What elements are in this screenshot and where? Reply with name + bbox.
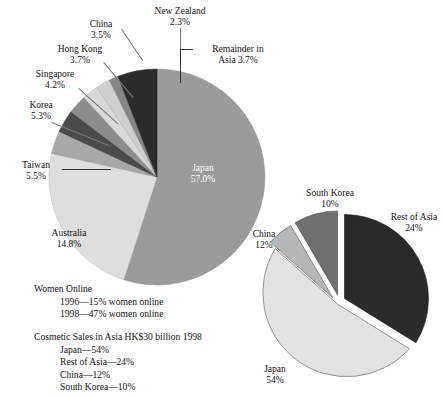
main-pie-label-australia: Australia 14.8% (38, 228, 100, 249)
pie2-label-rest-of-asia: Rest of Asia 24% (385, 212, 443, 233)
main-pie-label-korea: Korea 5.3% (14, 100, 68, 121)
notes-cosmetic-sales-line-2: Rest of Asia—24% (34, 356, 202, 369)
notes-women-online-heading: Women Online (34, 283, 163, 296)
figure-canvas: Japan 57.0% New Zealand 2.3% China 3.5% … (0, 0, 443, 398)
pie2-label-south-korea: South Korea 10% (294, 188, 366, 209)
notes-cosmetic-sales-line-3: China—12% (34, 369, 202, 382)
notes-women-online: Women Online 1996—15% women online 1998—… (34, 283, 163, 321)
notes-cosmetic-sales-line-4: South Korea—10% (34, 381, 202, 394)
main-pie-label-singapore: Singapore 4.2% (19, 69, 91, 90)
main-pie-label-remainder-asia: Remainder in Asia 3.7% (196, 44, 280, 65)
notes-cosmetic-sales-line-1: Japan—54% (34, 344, 202, 357)
pie2-label-china: China 12% (243, 229, 285, 250)
notes-women-online-line-2: 1998—47% women online (34, 308, 163, 321)
leader-line-china (121, 29, 143, 61)
main-pie-label-new-zealand: New Zealand 2.3% (141, 6, 219, 27)
leader-line-taiwan (62, 169, 111, 170)
notes-cosmetic-sales-heading: Cosmetic Sales in Asia HK$30 billion 199… (34, 331, 202, 344)
main-pie-label-taiwan: Taiwan 5.5% (8, 160, 64, 181)
leader-line-remainder-asia-vertical (180, 49, 181, 83)
notes-cosmetic-sales: Cosmetic Sales in Asia HK$30 billion 199… (34, 331, 202, 394)
main-pie-chart (42, 62, 272, 292)
main-pie-label-hong-kong: Hong Kong 3.7% (43, 44, 117, 65)
leader-line-remainder-asia-horizontal (180, 49, 193, 50)
pie2-label-japan: Japan 54% (254, 364, 296, 385)
notes-women-online-line-1: 1996—15% women online (34, 296, 163, 309)
main-pie-label-japan: Japan 57.0% (176, 163, 230, 184)
